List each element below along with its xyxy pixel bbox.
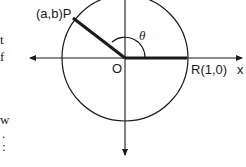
- margin-text-t: t: [0, 32, 4, 47]
- label-point-r: R(1,0): [191, 62, 227, 77]
- label-point-p: (a,b)P: [36, 6, 71, 21]
- label-x-axis: x: [237, 62, 244, 77]
- label-theta: θ: [139, 28, 146, 43]
- margin-text-colon: :: [2, 139, 6, 154]
- segment-op: [73, 18, 125, 58]
- unit-circle-diagram: t f w . : (a,b)P θ O R(1,0) x: [0, 0, 246, 167]
- label-origin: O: [112, 61, 122, 76]
- margin-text-w: w: [0, 112, 10, 127]
- margin-text-f: f: [0, 49, 5, 64]
